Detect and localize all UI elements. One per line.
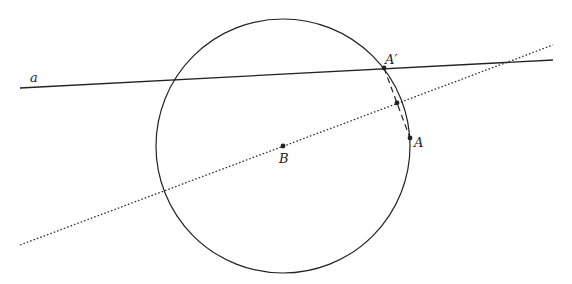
label-line-a: a xyxy=(30,70,38,85)
midpoint xyxy=(395,101,400,106)
label-a-prime: A′ xyxy=(384,52,397,67)
label-a: A xyxy=(413,135,423,150)
geometry-diagram: a B A A′ xyxy=(0,0,572,284)
line-a xyxy=(20,60,553,88)
point-b xyxy=(281,144,286,149)
label-b: B xyxy=(278,151,289,166)
dotted-axis-line xyxy=(20,45,553,245)
point-a xyxy=(408,136,413,141)
